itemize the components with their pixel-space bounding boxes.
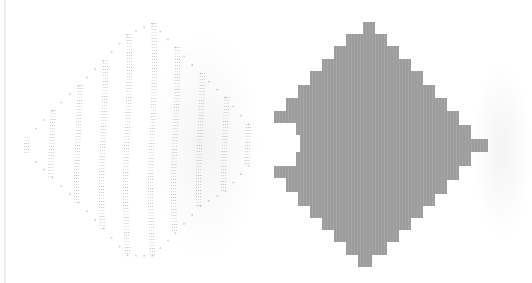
staircase-diamond-shape: [274, 22, 488, 267]
